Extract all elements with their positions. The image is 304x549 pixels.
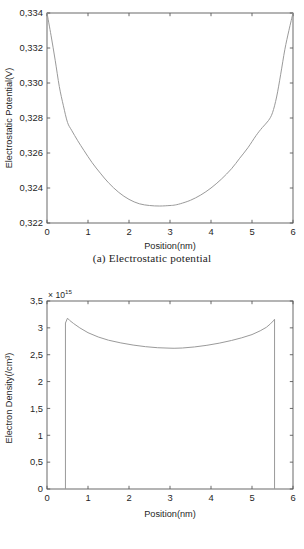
y-tick-label: 0,322 (20, 217, 43, 228)
x-tick-label: 2 (126, 226, 131, 237)
y-tick-label: 0,326 (20, 147, 43, 158)
y-tick-label: 0,332 (20, 42, 43, 53)
y-tick-label: 0,334 (20, 7, 43, 18)
x-axis-ticks-a (47, 13, 293, 223)
y-axis-ticks-a (47, 13, 293, 223)
panel-caption-a: (a) Electrostatic potential (0, 252, 304, 264)
data-series-electrostatic-potential (47, 13, 293, 206)
y-tick-label: 2 (38, 376, 43, 387)
x-tick-label: 5 (249, 492, 254, 503)
x-tick-label: 2 (126, 492, 131, 503)
y-axis-ticklabels-b: 00,511,522,533,5 (30, 295, 43, 494)
y-tick-label: 0,5 (30, 456, 43, 467)
x-tick-label: 4 (208, 226, 213, 237)
y-tick-label: 0,330 (20, 77, 43, 88)
y-tick-label: 3,5 (30, 295, 43, 306)
y-tick-label: 2,5 (30, 349, 43, 360)
x-tick-label: 3 (167, 226, 172, 237)
chart-panel-b: 0123456 00,511,522,533,5 × 1015 Position… (0, 274, 304, 549)
y-tick-label: 1,5 (30, 403, 43, 414)
plot-frame-a (47, 13, 293, 223)
x-tick-label: 0 (44, 226, 49, 237)
x-axis-ticklabels-b: 0123456 (44, 492, 295, 503)
y-tick-label: 0 (38, 483, 43, 494)
x-axis-ticklabels-a: 0123456 (44, 226, 295, 237)
y-axis-multiplier-b: × 1015 (48, 288, 72, 300)
electron-density-plot: 0123456 00,511,522,533,5 × 1015 Position… (0, 274, 304, 527)
x-tick-label: 3 (167, 492, 172, 503)
data-series-electron-density (65, 318, 274, 489)
x-tick-label: 0 (44, 492, 49, 503)
y-tick-label: 3 (38, 322, 43, 333)
y-axis-label-b: Electron Density(/cm³) (4, 353, 14, 444)
y-axis-label-a: Electrostatic Potential(V) (4, 68, 14, 169)
x-axis-label-a: Position(nm) (144, 241, 196, 251)
x-axis-ticks-b (47, 301, 293, 489)
x-tick-label: 6 (290, 226, 295, 237)
electrostatic-potential-plot: 0123456 0,3220,3240,3260,3280,3300,3320,… (0, 0, 304, 252)
x-tick-label: 1 (85, 492, 90, 503)
y-tick-label: 0,324 (20, 182, 43, 193)
x-tick-label: 6 (290, 492, 295, 503)
y-axis-ticks-b (47, 301, 293, 489)
x-tick-label: 5 (249, 226, 254, 237)
y-axis-ticklabels-a: 0,3220,3240,3260,3280,3300,3320,334 (20, 7, 43, 228)
x-axis-label-b: Position(nm) (144, 509, 196, 519)
y-tick-label: 0,328 (20, 112, 43, 123)
plot-frame-b (47, 301, 293, 489)
y-tick-label: 1 (38, 430, 43, 441)
x-tick-label: 1 (85, 226, 90, 237)
figure-container: 0123456 0,3220,3240,3260,3280,3300,3320,… (0, 0, 304, 549)
chart-panel-a: 0123456 0,3220,3240,3260,3280,3300,3320,… (0, 0, 304, 275)
x-tick-label: 4 (208, 492, 213, 503)
